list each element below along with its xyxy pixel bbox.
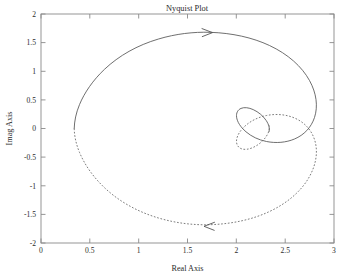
nyquist-curve-solid [74, 32, 316, 142]
y-tick-label: -1 [30, 182, 37, 191]
x-tick-label: 0 [39, 246, 43, 255]
nyquist-plot-figure: Nyquist Plot [0, 0, 345, 277]
x-tick-labels: 0 0.5 1 1.5 2 2.5 3 [39, 246, 336, 255]
y-tick-labels: 2 1.5 1 0.5 0 -0.5 -1 -1.5 -2 [24, 10, 36, 248]
plot-title: Nyquist Plot [166, 4, 209, 13]
x-tick-label: 0.5 [85, 246, 95, 255]
y-tick-label: 1.5 [27, 38, 37, 47]
y-tick-label: 0 [32, 124, 36, 133]
plot-canvas: Nyquist Plot [0, 0, 345, 277]
x-tick-label: 1.5 [183, 246, 193, 255]
y-tick-label: -0.5 [24, 153, 36, 162]
y-tick-label: 0.5 [27, 96, 37, 105]
nyquist-curve-dashed-group [74, 115, 316, 225]
nyquist-curve-dashed [74, 115, 316, 225]
y-tick-label: 1 [32, 67, 36, 76]
direction-arrow-lower [204, 222, 215, 230]
y-tick-label: -2 [30, 239, 37, 248]
x-tick-label: 2.5 [280, 246, 290, 255]
y-axis-ticks [41, 14, 334, 243]
plot-frame [41, 14, 334, 243]
x-tick-label: 2 [234, 246, 238, 255]
x-tick-label: 3 [332, 246, 336, 255]
y-tick-label: 2 [32, 10, 36, 19]
x-axis-ticks [41, 14, 334, 243]
x-axis-title: Real Axis [171, 264, 203, 273]
x-tick-label: 1 [137, 246, 141, 255]
y-tick-label: -1.5 [24, 210, 36, 219]
y-axis-title: Imag Axis [5, 112, 14, 146]
